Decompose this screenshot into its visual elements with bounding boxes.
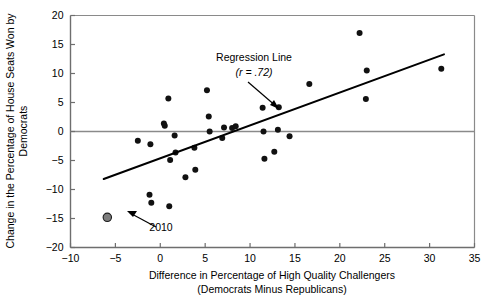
data-point — [306, 81, 312, 87]
x-tick-label: 15 — [289, 252, 301, 264]
x-tick-label: −5 — [109, 252, 121, 264]
x-tick-label: 30 — [424, 252, 436, 264]
data-point — [135, 138, 141, 144]
data-point — [204, 87, 210, 93]
data-point — [275, 127, 281, 133]
y-axis-label-line1: Change in the Percentage of House Seats … — [4, 13, 16, 249]
y-tick-label: 0 — [58, 125, 64, 137]
data-point-2010 — [103, 213, 111, 221]
scatter-plot-figure: −10−505101520253035 −20−15−10−505101520 … — [0, 0, 493, 307]
x-tick-label: 5 — [202, 252, 208, 264]
data-point — [261, 129, 267, 135]
data-point — [172, 133, 178, 139]
data-point — [148, 200, 154, 206]
data-point — [260, 105, 266, 111]
x-axis-label-line2: (Democrats Minus Republicans) — [197, 283, 346, 295]
data-point — [438, 66, 444, 72]
regression-trend-line — [104, 54, 444, 179]
x-tick-label: 20 — [334, 252, 346, 264]
x-axis-ticks: −10−505101520253035 — [62, 243, 481, 264]
y-tick-label: 10 — [52, 67, 64, 79]
chart-canvas: −10−505101520253035 −20−15−10−505101520 … — [0, 0, 493, 307]
data-point — [363, 96, 369, 102]
data-point — [221, 124, 227, 130]
data-point — [165, 95, 171, 101]
data-point — [162, 123, 168, 129]
data-point — [364, 68, 370, 74]
year-2010-label: 2010 — [149, 221, 173, 233]
x-tick-label: 25 — [379, 252, 391, 264]
data-point — [147, 192, 153, 198]
y-tick-label: 5 — [58, 96, 64, 108]
data-point — [206, 113, 212, 119]
y-tick-label: −10 — [46, 183, 64, 195]
x-tick-label: 35 — [469, 252, 481, 264]
regression-label-text: Regression Line — [216, 51, 292, 63]
data-point — [261, 156, 267, 162]
x-tick-label: −10 — [62, 252, 80, 264]
regression-r-text: (r = .72) — [235, 66, 272, 78]
data-point — [233, 123, 239, 129]
data-point — [357, 30, 363, 36]
data-point — [167, 157, 173, 163]
data-point — [182, 174, 188, 180]
y-tick-label: −15 — [46, 212, 64, 224]
y-tick-label: 20 — [52, 9, 64, 21]
y-tick-label: −20 — [46, 241, 64, 253]
data-point — [147, 141, 153, 147]
regression-line — [104, 54, 444, 179]
x-tick-label: 10 — [244, 252, 256, 264]
y-tick-label: 15 — [52, 38, 64, 50]
y-axis-label-line2: Democrats — [17, 106, 29, 157]
x-tick-label: 0 — [157, 252, 163, 264]
data-point — [166, 203, 172, 209]
data-point — [207, 129, 213, 135]
data-point — [192, 167, 198, 173]
data-point — [271, 149, 277, 155]
y-tick-label: −5 — [52, 154, 64, 166]
x-axis-label-line1: Difference in Percentage of High Quality… — [149, 269, 395, 281]
data-point — [287, 133, 293, 139]
